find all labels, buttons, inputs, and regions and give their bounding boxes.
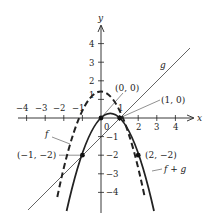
point-label: (2, −2) [145, 150, 177, 160]
y-tick-label: −1 [106, 132, 119, 142]
point-label: (−1, −2) [17, 150, 56, 160]
point-2-neg2 [136, 153, 141, 158]
point-label: (0, 0) [115, 83, 139, 93]
x-tick-label: 3 [154, 122, 159, 132]
x-tick-label: −4 [16, 103, 29, 113]
x-tick-label: −3 [35, 103, 48, 113]
y-tick-label: −4 [106, 187, 119, 197]
function-graph: x y −4 −3 −2 −1 1 2 3 4 [0, 0, 215, 223]
curve-g-label: g [160, 60, 166, 70]
x-tick-label: −2 [53, 103, 66, 113]
x-tick-label: 2 [136, 122, 141, 132]
y-tick-label: 3 [89, 58, 94, 68]
curve-g [28, 48, 190, 210]
curve-f-plus-g-label: f + g [163, 164, 187, 174]
x-axis-label: x [197, 113, 202, 123]
x-tick-label: 4 [173, 122, 178, 132]
point-label: (1, 0) [161, 95, 185, 105]
y-tick-label: −2 [106, 150, 119, 160]
origin-label: 0 [104, 122, 109, 132]
y-tick-label: 2 [89, 76, 94, 86]
y-axis-label: y [97, 13, 104, 23]
y-tick-label: 4 [89, 39, 94, 49]
curve-f-label: f [44, 129, 50, 139]
y-tick-label: −3 [106, 169, 119, 179]
